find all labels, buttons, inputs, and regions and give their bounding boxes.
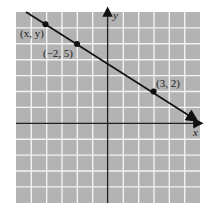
coordinate-plane: y x (x, y) (−2, 5) (3, 2)	[0, 0, 214, 211]
point-label-neg2-5: (−2, 5)	[43, 47, 73, 60]
x-axis-label: x	[192, 126, 198, 138]
point-3-2	[151, 89, 157, 95]
point-label-3-2: (3, 2)	[156, 77, 180, 90]
y-axis-label: y	[112, 9, 118, 21]
point-label-x-y: (x, y)	[20, 27, 44, 40]
point-neg2-5	[74, 41, 80, 47]
